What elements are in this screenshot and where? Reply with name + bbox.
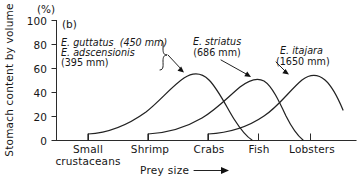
annotation-striatus: E. striatus (686 mm)	[193, 36, 251, 77]
annotation-itajara: E. itajara (1650 mm)	[276, 45, 330, 75]
arrow-right-icon	[221, 167, 229, 174]
x-tick-label-small-crustaceans-line1: Small	[73, 143, 103, 155]
y-axis-unit: (%)	[37, 3, 55, 15]
x-axis-title-group: Prey size	[140, 164, 229, 176]
y-tick-labels: (%) 100 80 60 40 20 0	[27, 3, 55, 147]
y-tick-label-100: 100	[27, 15, 47, 27]
x-tick-labels: Small crustaceans Shrimp Crabs Fish Lobs…	[55, 143, 335, 167]
x-tick-label-lobsters: Lobsters	[289, 143, 335, 155]
x-tick-label-shrimp: Shrimp	[131, 143, 170, 155]
curve-e-itajara	[208, 76, 343, 141]
arrowhead-striatus-icon	[244, 72, 251, 77]
chart-canvas: (%) 100 80 60 40 20 0 (b) Stomach conten…	[0, 0, 362, 178]
x-tick-label-small-crustaceans-line2: crustaceans	[55, 155, 120, 167]
curves-group	[88, 74, 343, 140]
ann-striatus-species: E. striatus	[193, 36, 241, 47]
x-axis-title: Prey size	[140, 164, 189, 176]
curve-e-guttatus-adscensionis	[88, 74, 252, 140]
y-tick-label-20: 20	[33, 111, 47, 123]
ann-adscensionis-size: (395 mm)	[61, 57, 109, 68]
ann-itajara-size: (1650 mm)	[276, 56, 330, 67]
arrowhead-guttatus-icon	[178, 67, 185, 73]
x-tick-label-fish: Fish	[249, 143, 270, 155]
leader-striatus	[221, 60, 248, 75]
leader-guttatus	[168, 55, 182, 70]
ann-striatus-size: (686 mm)	[193, 47, 241, 58]
y-tick-label-80: 80	[33, 39, 47, 51]
y-tick-label-60: 60	[33, 63, 47, 75]
panel-label: (b)	[62, 18, 77, 30]
y-tick-label-0: 0	[40, 135, 47, 147]
annotation-guttatus-adscensionis: E. guttatus (450 mm) E. adscensionis (39…	[61, 37, 184, 73]
y-tick-label-40: 40	[33, 87, 47, 99]
y-axis-title: Stomach content by volume	[3, 3, 15, 156]
ann-itajara-species: E. itajara	[280, 45, 323, 56]
x-tick-label-crabs: Crabs	[194, 143, 225, 155]
figure-panel-b: (%) 100 80 60 40 20 0 (b) Stomach conten…	[0, 0, 362, 178]
